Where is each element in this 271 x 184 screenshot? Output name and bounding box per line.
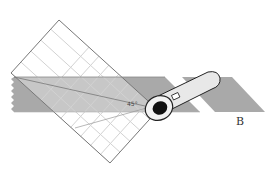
angle-label: 45° [127,100,138,107]
fabric-b-label: B [236,115,244,128]
diagram-canvas [0,0,271,184]
